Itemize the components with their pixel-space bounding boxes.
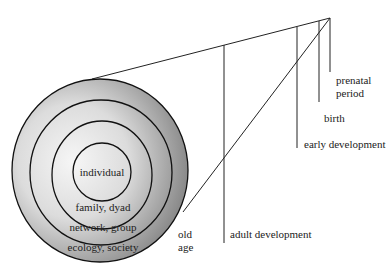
label-prenatal-period: prenatal period <box>336 74 371 100</box>
label-adult-development: adult development <box>230 228 312 241</box>
label-individual: individual <box>80 166 125 179</box>
label-family-dyad: family, dyad <box>76 201 131 214</box>
label-old-age: old age <box>178 228 193 254</box>
top-perspective-line <box>92 18 330 79</box>
diagram-canvas <box>0 0 387 273</box>
label-birth: birth <box>324 112 345 125</box>
label-ecology-society: ecology, society <box>68 241 139 254</box>
label-network-group: network, group <box>69 221 136 234</box>
diagonal-perspective-line <box>183 18 330 212</box>
label-early-development: early development <box>304 138 386 151</box>
